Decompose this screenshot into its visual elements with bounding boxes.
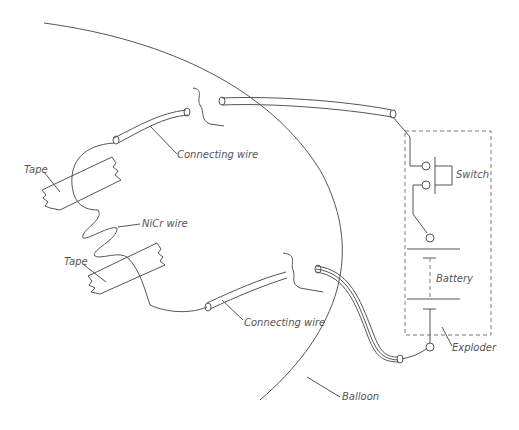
- diagram-canvas: [0, 0, 519, 430]
- upper-wire-right: [219, 97, 396, 118]
- lower-wire-left: [205, 272, 287, 311]
- exploder-leader: [442, 327, 452, 346]
- connecting-wire-leader-lower: [222, 300, 243, 320]
- balloon-exploder-diagram: Tape Connecting wire NiCr wire Tape Conn…: [0, 0, 519, 430]
- battery-terminal: [426, 234, 434, 242]
- label-battery: Battery: [436, 273, 473, 285]
- switch-terminal-bottom: [422, 181, 430, 189]
- label-connecting-wire-lower: Connecting wire: [244, 317, 325, 329]
- tape-lower: [88, 243, 165, 294]
- tape-upper: [42, 157, 121, 210]
- connecting-wire-leader-upper: [150, 126, 177, 154]
- upper-wire-left: [113, 108, 190, 144]
- exploder-box: [405, 131, 491, 335]
- label-exploder: Exploder: [452, 342, 496, 354]
- wire-to-switch: [393, 117, 422, 166]
- balloon-outline: [44, 23, 342, 400]
- label-switch: Switch: [456, 169, 489, 181]
- nicr-leader: [118, 224, 140, 227]
- label-balloon: Balloon: [342, 391, 379, 403]
- label-tape-lower: Tape: [64, 256, 88, 268]
- label-connecting-wire-upper: Connecting wire: [177, 149, 258, 161]
- wire-terminal-to-lower: [402, 349, 426, 359]
- balloon-leader: [307, 377, 340, 397]
- nicr-wire-lower: [150, 305, 207, 312]
- output-terminal: [426, 343, 434, 351]
- switch-button: [435, 166, 452, 185]
- label-tape-upper: Tape: [24, 164, 48, 176]
- wire-switch-to-battery: [413, 185, 427, 233]
- switch-terminal-top: [422, 162, 430, 170]
- break-squiggle-upper: [193, 88, 224, 126]
- label-nicr-wire: NiCr wire: [142, 218, 188, 230]
